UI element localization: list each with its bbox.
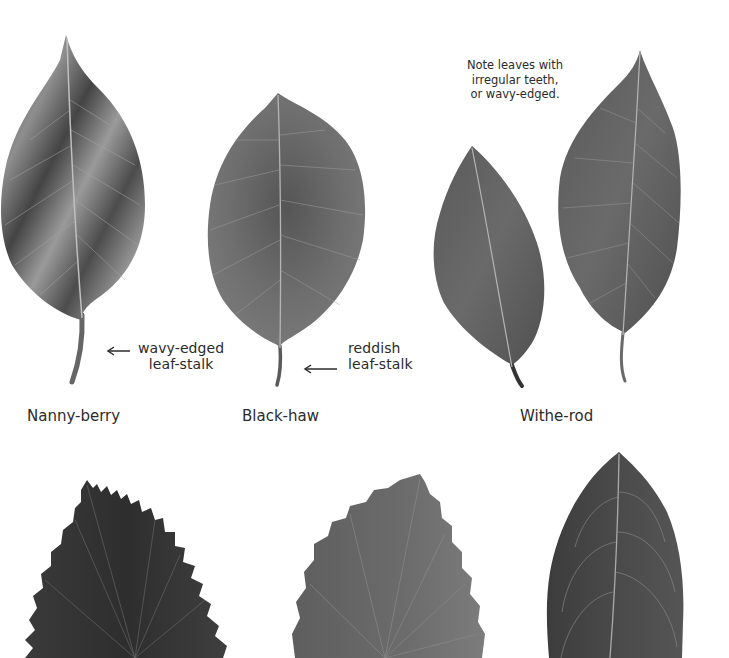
species-label-nanny-berry: Nanny-berry xyxy=(27,407,120,425)
coarse-toothed-leaf-image xyxy=(290,474,490,658)
black-haw-annotation: reddish leaf-stalk xyxy=(348,340,413,372)
annotation-line: leaf-stalk xyxy=(348,356,413,372)
sharp-toothed-leaf-image xyxy=(15,480,235,658)
smooth-edged-leaf-image xyxy=(547,452,687,658)
species-label-black-haw: Black-haw xyxy=(242,407,319,425)
nanny-berry-leaf-image xyxy=(0,30,160,390)
withe-rod-leaf-large-image xyxy=(555,48,685,388)
species-label-withe-rod: Withe-rod xyxy=(520,407,593,425)
withe-rod-leaf-small-image xyxy=(432,143,552,388)
annotation-line: reddish xyxy=(348,340,413,356)
arrow-left-icon xyxy=(106,341,130,351)
arrow-left-icon xyxy=(303,359,337,369)
